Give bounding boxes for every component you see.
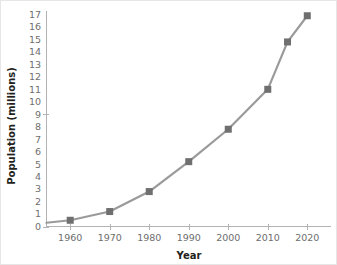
x-axis-title: Year (176, 250, 202, 261)
data-point-marker (67, 217, 74, 224)
y-tick-label: 7 (35, 134, 41, 145)
x-tick-label: 2000 (216, 232, 240, 243)
x-tick-label: 1960 (58, 232, 82, 243)
y-tick-label: 16 (29, 21, 41, 32)
y-tick-label: 14 (29, 46, 41, 57)
y-tick-label: 10 (29, 96, 41, 107)
y-axis-title: Population (millions) (6, 67, 17, 185)
x-tick-label: 1990 (177, 232, 201, 243)
x-tick-label: 1980 (137, 232, 161, 243)
data-point-marker (264, 86, 271, 93)
y-tick-label: 0 (35, 221, 41, 232)
y-tick-label: 15 (29, 34, 41, 45)
x-tick-label: 2010 (256, 232, 280, 243)
population-line-chart: 01234567891011121314151617 1960197019801… (1, 1, 337, 265)
data-point-marker (284, 38, 291, 45)
y-tick-label: 11 (29, 84, 41, 95)
y-tick-label: 1 (35, 208, 41, 219)
data-point-marker (106, 208, 113, 215)
chart-container: 01234567891011121314151617 1960197019801… (0, 0, 337, 265)
y-tick-label: 12 (29, 71, 41, 82)
x-tick-label: 2020 (295, 232, 319, 243)
y-tick-label: 5 (35, 159, 41, 170)
y-tick-label: 4 (35, 171, 41, 182)
x-tick-label: 1970 (98, 232, 122, 243)
y-tick-label: 13 (29, 59, 41, 70)
data-point-marker (304, 12, 311, 19)
data-point-marker (146, 188, 153, 195)
y-tick-label: 9 (35, 109, 41, 120)
data-point-marker (185, 158, 192, 165)
y-tick-label: 8 (35, 121, 41, 132)
y-tick-label: 6 (35, 146, 41, 157)
data-point-marker (225, 126, 232, 133)
y-tick-label: 17 (29, 9, 41, 20)
y-tick-label: 2 (35, 196, 41, 207)
y-tick-label: 3 (35, 183, 41, 194)
